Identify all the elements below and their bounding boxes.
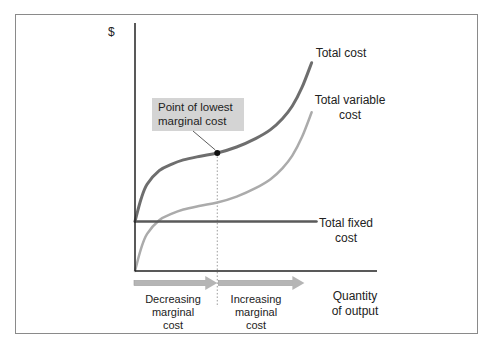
region-arrow-increasing [218, 276, 304, 290]
x-axis-label: Quantityof output [332, 289, 379, 318]
total-cost-curve [135, 63, 312, 222]
region-arrow-decreasing [134, 276, 217, 290]
total-cost-curve-label: Total cost [316, 46, 367, 60]
region-labels: DecreasingmarginalcostIncreasingmarginal… [145, 293, 281, 331]
region-label-decreasing: Decreasingmarginalcost [145, 293, 201, 331]
region-label-increasing: Increasingmarginalcost [231, 293, 282, 331]
callout-leader-line [193, 131, 215, 150]
series-group [135, 63, 317, 271]
lowest-marginal-cost-callout: Point of lowestmarginal cost [152, 98, 244, 156]
lowest-marginal-cost-point [214, 150, 220, 156]
total-variable-cost-curve [135, 112, 312, 271]
total-variable-cost-curve-label: Total variablecost [315, 93, 386, 122]
series-labels: Total costTotal variablecostTotal fixedc… [315, 46, 386, 245]
marginal-cost-region-arrows [134, 276, 304, 290]
y-axis-label: $ [108, 25, 115, 39]
cost-curves-chart: $ Quantityof output Point of lowestmargi… [0, 0, 487, 344]
total-fixed-cost-line-label: Total fixedcost [319, 216, 373, 245]
